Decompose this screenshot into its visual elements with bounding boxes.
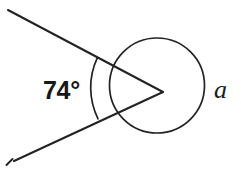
ray-end-tick bbox=[7, 159, 13, 165]
upper-ray bbox=[8, 10, 163, 92]
angle-label-a: a bbox=[214, 77, 227, 103]
circle-shape bbox=[110, 38, 205, 133]
angle-arc-74 bbox=[91, 58, 98, 119]
geometry-canvas bbox=[0, 0, 241, 170]
geometry-figure: 74° a bbox=[0, 0, 241, 170]
angle-label-74: 74° bbox=[43, 78, 80, 103]
lower-ray bbox=[14, 92, 163, 161]
